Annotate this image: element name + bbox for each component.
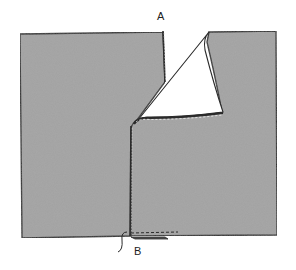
- label-b: B: [134, 245, 141, 257]
- sewing-diagram: A B: [0, 0, 296, 270]
- seam-lower: [130, 126, 131, 236]
- bottom-tab: [131, 237, 168, 239]
- label-a: A: [157, 10, 165, 22]
